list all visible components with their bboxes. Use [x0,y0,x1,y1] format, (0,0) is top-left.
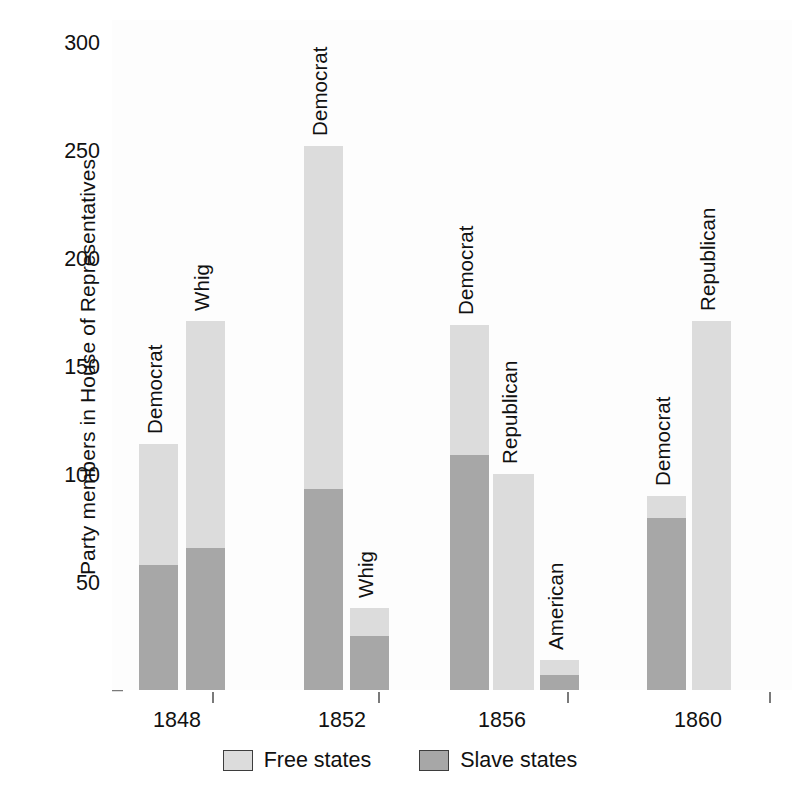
x-tick-label-1852: 1852 [282,708,402,733]
bar-label-1856-democrat: Democrat [454,225,478,315]
y-tick-label-150: 150 [40,355,100,380]
segment-slave-states [304,489,343,690]
plot-area: Democrat Whig Democrat Whig Democrat [112,20,792,690]
segment-free-states [692,321,731,690]
segment-slave-states [540,675,579,690]
bar-label-1860-republican: Republican [696,207,720,311]
x-tick-mark-1856 [567,692,569,703]
y-tick-label-200: 200 [40,247,100,272]
bar-label-1848-whig: Whig [190,264,214,311]
x-tick-label-1856: 1856 [442,708,562,733]
segment-free-states [540,660,579,675]
bar-label-1856-american: American [544,563,568,650]
bar-1860-democrat[interactable]: Democrat [647,496,686,690]
bar-label-1852-democrat: Democrat [308,46,332,136]
bar-label-1852-whig: Whig [354,551,378,598]
y-axis-ticks: 300 250 200 150 100 50 [38,0,100,797]
y-tick-label-100: 100 [40,463,100,488]
segment-slave-states [647,518,686,690]
bar-label-1848-democrat: Democrat [143,344,167,434]
segment-free-states [350,608,389,636]
segment-free-states [304,146,343,489]
x-tick-mark-1848 [212,692,214,703]
segment-slave-states [450,455,489,690]
legend-swatch-slave-states [419,750,449,771]
legend-label-slave-states: Slave states [460,748,577,773]
y-tick-label-300: 300 [40,31,100,56]
y-tick-label-50: 50 [40,571,100,596]
bar-label-1856-republican: Republican [498,360,522,464]
segment-slave-states [139,565,178,690]
bar-label-1860-democrat: Democrat [651,396,675,486]
legend-item-slave-states[interactable]: Slave states [419,748,577,773]
segment-free-states [493,474,534,690]
legend-item-free-states[interactable]: Free states [223,748,372,773]
x-tick-label-1848: 1848 [117,708,237,733]
bar-1852-whig[interactable]: Whig [350,608,389,690]
x-tick-label-1860: 1860 [638,708,758,733]
x-tick-mark-1860 [769,692,771,703]
segment-free-states [139,444,178,565]
y-tick-label-250: 250 [40,139,100,164]
segment-free-states [450,325,489,455]
bar-1848-whig[interactable]: Whig [186,321,225,690]
segment-slave-states [186,548,225,690]
legend-swatch-free-states [223,750,253,771]
bar-chart: Party members in House of Representative… [0,0,800,797]
bar-1860-republican[interactable]: Republican [692,321,731,690]
legend: Free states Slave states [0,748,800,773]
legend-label-free-states: Free states [264,748,372,773]
segment-free-states [186,321,225,548]
bar-1848-democrat[interactable]: Democrat [139,444,178,690]
bar-1856-democrat[interactable]: Democrat [450,325,489,690]
x-tick-mark-1852 [378,692,380,703]
segment-slave-states [350,636,389,690]
bar-1856-republican[interactable]: Republican [493,474,534,690]
bar-1856-american[interactable]: American [540,660,579,690]
bar-1852-democrat[interactable]: Democrat [304,146,343,690]
x-axis: 1848 1852 1856 1860 [112,690,792,740]
segment-free-states [647,496,686,518]
